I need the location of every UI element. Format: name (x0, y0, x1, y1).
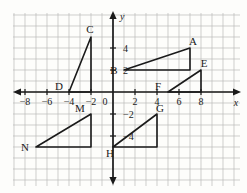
x-tick-label: −4 (64, 96, 75, 107)
figure-background (0, 0, 247, 193)
x-tick-label: −8 (20, 96, 31, 107)
graph-svg: −8−6−4−224680 42−2−4 xy CDABEFMNGH (0, 0, 247, 193)
coordinate-plane-figure: −8−6−4−224680 42−2−4 xy CDABEFMNGH (0, 0, 247, 193)
vertex-label-F: F (155, 80, 161, 92)
vertex-label-A: A (189, 35, 197, 47)
vertex-label-M: M (75, 102, 85, 114)
vertex-label-N: N (21, 141, 29, 153)
x-tick-label: 2 (133, 96, 138, 107)
vertex-label-D: D (55, 80, 63, 92)
origin-label: 0 (103, 96, 108, 107)
x-axis-label: x (233, 97, 239, 108)
x-tick-label: 8 (199, 96, 204, 107)
vertex-label-G: G (156, 102, 164, 114)
vertex-label-B: B (110, 64, 117, 76)
y-tick-label: 4 (123, 43, 128, 54)
y-tick-label: −2 (123, 109, 134, 120)
vertex-label-E: E (201, 57, 208, 69)
x-tick-label: −6 (42, 96, 53, 107)
vertex-label-C: C (86, 23, 93, 35)
x-tick-label: 6 (177, 96, 182, 107)
y-axis-label: y (119, 11, 125, 22)
x-tick-label: −2 (86, 96, 97, 107)
vertex-label-H: H (106, 147, 114, 159)
